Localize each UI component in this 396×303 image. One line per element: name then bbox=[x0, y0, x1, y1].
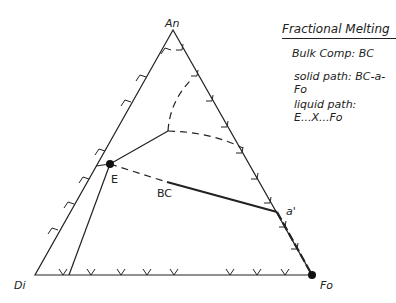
di-boundary bbox=[69, 164, 110, 275]
liquid-path-dashed bbox=[110, 164, 167, 182]
label-a-prime: a' bbox=[286, 205, 296, 218]
legend-title: Fractional Melting bbox=[282, 22, 396, 39]
legend: Fractional Melting Bulk Comp: BC solid p… bbox=[282, 20, 396, 126]
label-e: E bbox=[111, 173, 118, 186]
fo-point bbox=[308, 271, 316, 279]
legend-solid-path: solid path: BC-a-Fo bbox=[294, 70, 396, 96]
vertex-fo: Fo bbox=[320, 279, 333, 292]
eutectic-point bbox=[106, 160, 114, 168]
arrow-ticks bbox=[48, 44, 298, 275]
legend-liquid-path: liquid path: E...X...Fo bbox=[294, 98, 396, 124]
cotectic-line bbox=[110, 131, 168, 164]
legend-bulk: Bulk Comp: BC bbox=[292, 47, 396, 60]
solid-path bbox=[167, 182, 277, 212]
dashed-boundary-upper bbox=[168, 78, 193, 131]
vertex-di: Di bbox=[14, 279, 26, 292]
triangle-outline bbox=[35, 30, 312, 275]
vertex-an: An bbox=[165, 17, 180, 30]
label-bc: BC bbox=[157, 187, 172, 200]
